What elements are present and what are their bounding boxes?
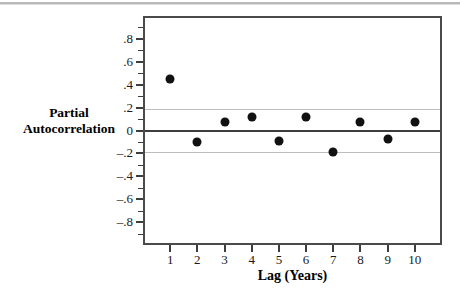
x-axis-tick-label: 6 bbox=[291, 252, 321, 268]
x-axis-tick-label: 9 bbox=[373, 252, 403, 268]
x-axis-tick-label: 2 bbox=[182, 252, 212, 268]
page-top-rule-secondary bbox=[0, 4, 460, 5]
x-axis-tick bbox=[305, 245, 307, 252]
y-axis-tick bbox=[136, 221, 143, 223]
y-axis-tick-label: –.4 bbox=[93, 168, 133, 184]
data-point bbox=[220, 118, 229, 127]
y-axis-tick-label: 0 bbox=[93, 123, 133, 139]
x-axis-tick-label: 1 bbox=[155, 252, 185, 268]
x-axis-tick-label: 3 bbox=[210, 252, 240, 268]
y-axis-tick bbox=[136, 38, 143, 40]
x-axis-tick bbox=[169, 245, 171, 252]
y-axis-tick-label: .4 bbox=[93, 77, 133, 93]
y-axis-tick bbox=[136, 175, 143, 177]
x-axis-tick bbox=[278, 245, 280, 252]
data-point bbox=[410, 118, 419, 127]
data-point bbox=[383, 134, 392, 143]
y-axis-tick-label: –.6 bbox=[93, 191, 133, 207]
x-axis-tick-label: 7 bbox=[318, 252, 348, 268]
y-axis-tick-label: .2 bbox=[93, 100, 133, 116]
x-axis-tick bbox=[251, 245, 253, 252]
x-axis-tick-label: 4 bbox=[237, 252, 267, 268]
x-axis-tick bbox=[224, 245, 226, 252]
lower-confidence-limit bbox=[145, 152, 440, 153]
y-axis-tick bbox=[136, 84, 143, 86]
x-axis-tick bbox=[196, 245, 198, 252]
data-point bbox=[274, 136, 283, 145]
y-axis-tick bbox=[136, 198, 143, 200]
x-axis-tick bbox=[332, 245, 334, 252]
x-axis-title: Lag (Years) bbox=[143, 268, 442, 284]
y-axis-tick bbox=[136, 130, 143, 132]
y-axis-tick bbox=[136, 152, 143, 154]
x-axis-tick-label: 8 bbox=[345, 252, 375, 268]
x-axis-tick bbox=[414, 245, 416, 252]
x-axis-tick bbox=[387, 245, 389, 252]
data-point bbox=[329, 148, 338, 157]
plot-area bbox=[143, 16, 442, 245]
data-point bbox=[193, 137, 202, 146]
y-axis-tick bbox=[136, 107, 143, 109]
data-point bbox=[166, 74, 175, 83]
y-axis-tick-label: .6 bbox=[93, 54, 133, 70]
y-axis-tick-label: .8 bbox=[93, 31, 133, 47]
data-point bbox=[302, 112, 311, 121]
x-axis-tick-label: 5 bbox=[264, 252, 294, 268]
data-point bbox=[247, 112, 256, 121]
y-axis-tick bbox=[136, 61, 143, 63]
data-point bbox=[356, 118, 365, 127]
upper-confidence-limit bbox=[145, 109, 440, 110]
zero-line bbox=[145, 130, 440, 132]
y-axis-tick-label: –.2 bbox=[93, 145, 133, 161]
x-axis-tick bbox=[359, 245, 361, 252]
chart-screenshot: Partial Autocorrelation .8.6.4.20–.2–.4–… bbox=[0, 0, 460, 293]
x-axis-tick-label: 10 bbox=[400, 252, 430, 268]
y-axis-tick-label: –.8 bbox=[93, 214, 133, 230]
